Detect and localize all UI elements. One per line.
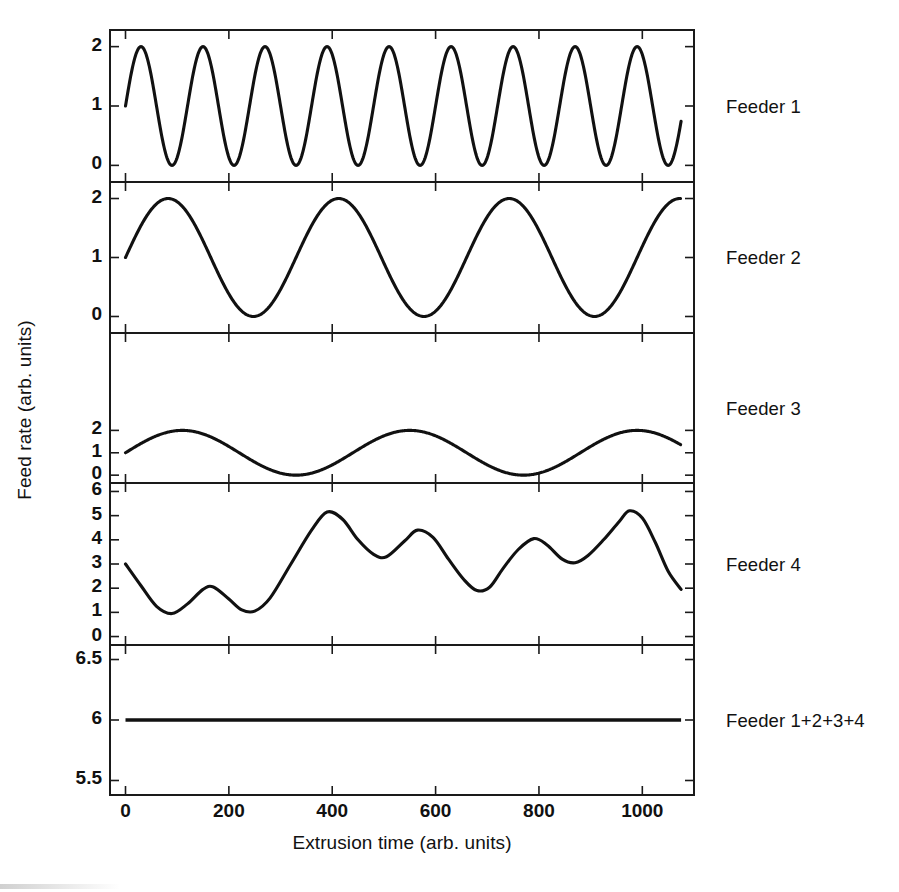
y-tick-label-p4-1: 1 <box>22 599 102 621</box>
y-tick-label-p4-6: 6 <box>22 478 102 500</box>
figure-canvas: Feed rate (arb. units) Extrusion time (a… <box>0 0 899 892</box>
curve-feeder-3 <box>126 430 681 475</box>
curve-feeder-4 <box>126 511 682 614</box>
y-tick-label-p3-2: 2 <box>22 417 102 439</box>
scan-artifact <box>0 884 120 889</box>
x-tick-label-400: 400 <box>287 800 377 822</box>
y-tick-label-p4-0: 0 <box>22 624 102 646</box>
y-tick-label-p4-5: 5 <box>22 503 102 525</box>
panel-label-feeder-4: Feeder 4 <box>726 554 801 576</box>
y-tick-label-p1-1: 1 <box>22 93 102 115</box>
y-tick-label-p1-2: 2 <box>22 34 102 56</box>
curve-feeder-1 <box>126 47 682 166</box>
panel-label-feeder-sum: Feeder 1+2+3+4 <box>726 710 865 732</box>
multi-panel-line-chart <box>0 0 899 892</box>
panel-label-feeder-3: Feeder 3 <box>726 398 801 420</box>
panel-label-feeder-2: Feeder 2 <box>726 247 801 269</box>
x-tick-label-200: 200 <box>184 800 274 822</box>
x-tick-label-1000: 1000 <box>597 800 687 822</box>
y-tick-label-p2-2: 2 <box>22 186 102 208</box>
y-tick-label-p4-3: 3 <box>22 551 102 573</box>
y-tick-label-p5-6.5: 6.5 <box>22 647 102 669</box>
x-axis-title: Extrusion time (arb. units) <box>110 832 694 854</box>
y-tick-label-p2-0: 0 <box>22 303 102 325</box>
y-tick-label-p5-5.5: 5.5 <box>22 767 102 789</box>
curve-feeder-2 <box>126 199 681 317</box>
x-tick-label-800: 800 <box>494 800 584 822</box>
y-tick-label-p2-1: 1 <box>22 245 102 267</box>
panel-label-feeder-1: Feeder 1 <box>726 96 801 118</box>
y-tick-label-p4-2: 2 <box>22 575 102 597</box>
panel-frame-3 <box>110 333 694 483</box>
x-tick-label-600: 600 <box>391 800 481 822</box>
x-tick-label-0: 0 <box>81 800 171 822</box>
y-tick-label-p4-4: 4 <box>22 527 102 549</box>
y-tick-label-p5-6: 6 <box>22 707 102 729</box>
panel-frame-4 <box>110 483 694 645</box>
y-tick-label-p3-1: 1 <box>22 440 102 462</box>
y-tick-label-p1-0: 0 <box>22 152 102 174</box>
